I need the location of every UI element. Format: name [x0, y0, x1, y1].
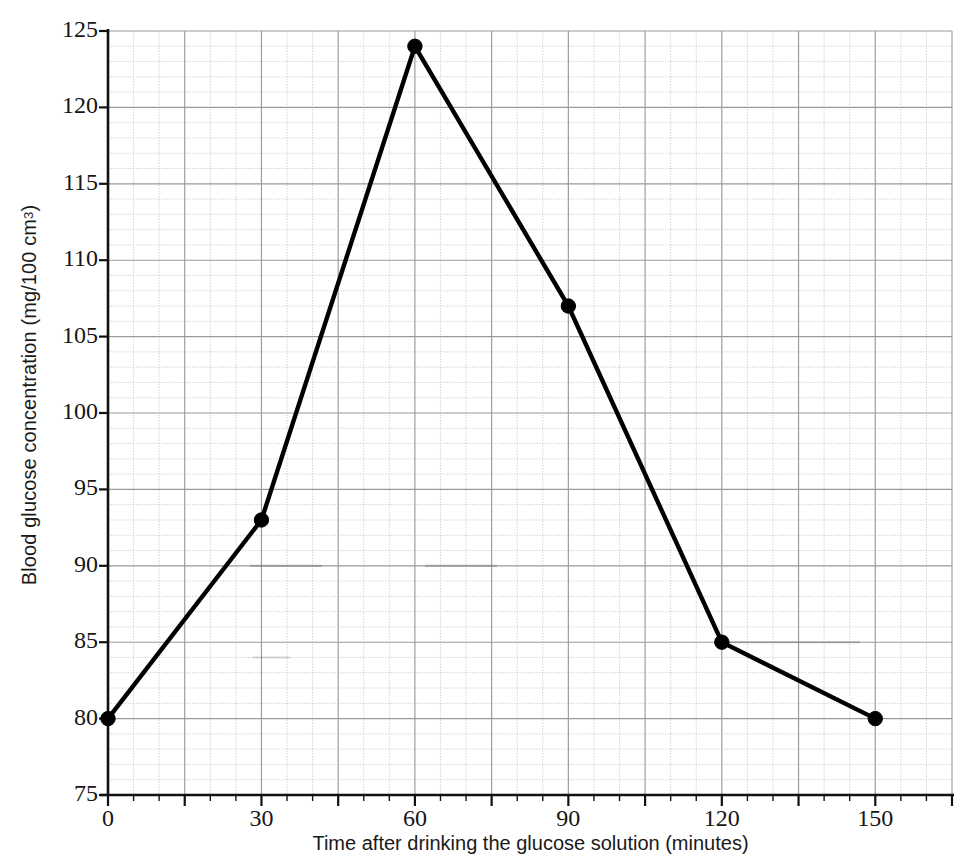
- data-point-marker-60min: [408, 39, 422, 53]
- y-tick-label: 125: [38, 17, 98, 41]
- x-tick-label: 150: [840, 806, 910, 830]
- y-tick-label: 105: [38, 323, 98, 347]
- y-tick-label: 75: [38, 781, 98, 805]
- y-tick-label: 100: [38, 399, 98, 423]
- blood-glucose-line-chart: Blood glucose concentration (mg/100 cm3)…: [0, 0, 971, 866]
- y-tick-label: 90: [38, 552, 98, 576]
- y-axis-title: Blood glucose concentration (mg/100 cm3): [14, 0, 44, 790]
- y-tick-label: 120: [38, 93, 98, 117]
- x-axis-title: Time after drinking the glucose solution…: [108, 832, 953, 855]
- data-point-marker-90min: [561, 299, 575, 313]
- x-tick-label: 30: [226, 806, 296, 830]
- y-axis-title-tail: ): [18, 205, 41, 212]
- y-tick-label: 80: [38, 705, 98, 729]
- data-point-marker-120min: [715, 635, 729, 649]
- data-point-marker-150min: [868, 711, 882, 725]
- axis-lines: [100, 29, 954, 795]
- x-tick-label: 120: [687, 806, 757, 830]
- y-tick-label: 85: [38, 628, 98, 652]
- y-tick-label: 115: [38, 170, 98, 194]
- grid-major-lines: [108, 31, 952, 795]
- plot-surface: [0, 0, 971, 866]
- x-tick-label: 0: [73, 806, 143, 830]
- data-point-marker-30min: [254, 513, 268, 527]
- y-tick-label: 110: [38, 246, 98, 270]
- x-tick-label: 90: [533, 806, 603, 830]
- data-point-marker-0min: [101, 711, 115, 725]
- x-tick-label: 60: [380, 806, 450, 830]
- y-tick-label: 95: [38, 475, 98, 499]
